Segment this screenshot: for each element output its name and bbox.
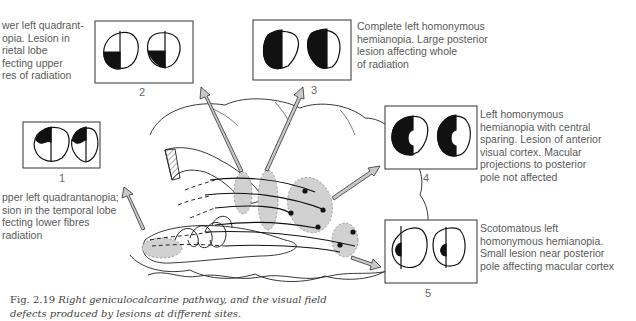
panel-2-description: wer left quadrant- opia. Lesion in rieta… (2, 19, 84, 82)
panel-1-number: 1 (59, 172, 65, 184)
panel-1-description: pper left quadrantanopia; sion in the te… (2, 191, 119, 241)
panel-5-description: Scotomatous left homonymous hemianopia. … (480, 222, 614, 272)
figure-number: Fig. 2.19 (10, 294, 55, 305)
lesion-site-1 (142, 238, 182, 258)
panel-4-number: 4 (423, 172, 429, 184)
panel-2-number: 2 (139, 86, 145, 98)
lesion-site-5 (332, 223, 358, 257)
figure-caption: Fig. 2.19 Right geniculocalcarine pathwa… (10, 293, 327, 320)
arrow-to-panel-1 (122, 187, 145, 230)
panel-4-description: Left homonymous hemianopia with central … (480, 108, 601, 184)
caption-line-1: Right geniculocalcarine pathway, and the… (58, 294, 326, 305)
arrow-to-panel-5 (351, 256, 381, 270)
panel-3-description: Complete left homonymous hemianopia. Lar… (357, 20, 488, 70)
panel-5-number: 5 (425, 287, 431, 299)
panel-3-number: 3 (311, 84, 317, 96)
caption-line-2: defects produced by lesions at different… (10, 308, 241, 319)
arrow-to-panel-4 (332, 166, 380, 200)
